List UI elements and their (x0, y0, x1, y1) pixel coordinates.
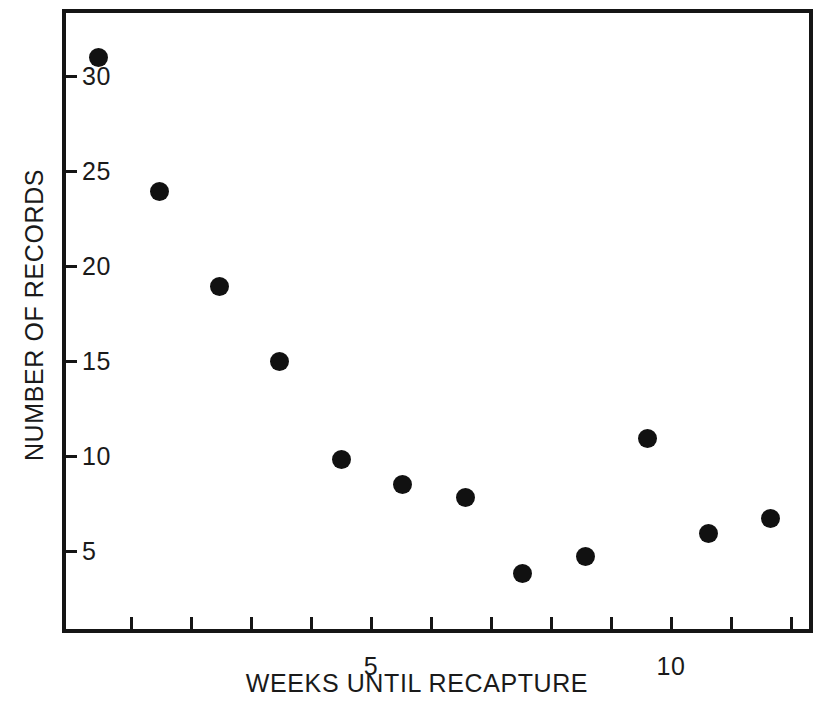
plot-area: 51015202530510 (66, 13, 809, 629)
y-axis-tick-label: 10 (82, 444, 111, 469)
data-point (270, 352, 289, 371)
plot-frame: 51015202530510 (62, 9, 813, 633)
data-point (699, 524, 718, 543)
data-point (393, 475, 412, 494)
data-point (576, 547, 595, 566)
x-axis-tick (670, 617, 673, 629)
y-axis-tick (66, 265, 77, 268)
data-point (456, 488, 475, 507)
data-point (89, 48, 108, 67)
y-axis-tick-label: 20 (82, 254, 111, 279)
data-point (210, 277, 229, 296)
y-axis-tick (66, 360, 77, 363)
y-axis-tick-label: 15 (82, 349, 111, 374)
y-axis-tick-label: 5 (82, 539, 96, 564)
y-axis-tick-label: 25 (82, 159, 111, 184)
data-point (761, 509, 780, 528)
y-axis-tick (66, 455, 77, 458)
x-axis-tick (310, 617, 313, 629)
data-point (638, 429, 657, 448)
x-axis-tick (790, 617, 793, 629)
x-axis-tick (430, 617, 433, 629)
y-axis-title: NUMBER OF RECORDS (19, 15, 49, 615)
x-axis-tick (370, 617, 373, 629)
x-axis-tick (250, 617, 253, 629)
x-axis-title: WEEKS UNTIL RECAPTURE (0, 668, 834, 698)
y-axis-tick-label: 30 (82, 64, 111, 89)
y-axis-tick (66, 170, 77, 173)
y-axis-tick (66, 550, 77, 553)
data-point (150, 182, 169, 201)
x-axis-tick (730, 617, 733, 629)
x-axis-tick (610, 617, 613, 629)
y-axis-tick (66, 75, 77, 78)
x-axis-tick (130, 617, 133, 629)
data-point (332, 450, 351, 469)
data-point (513, 564, 532, 583)
figure-canvas: 51015202530510 WEEKS UNTIL RECAPTURE NUM… (0, 0, 834, 715)
x-axis-tick (190, 617, 193, 629)
x-axis-tick (490, 617, 493, 629)
x-axis-tick (550, 617, 553, 629)
